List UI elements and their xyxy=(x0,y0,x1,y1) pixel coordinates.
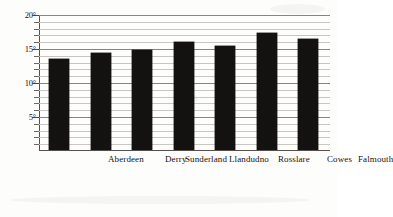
bar xyxy=(132,50,152,150)
y-axis-tick-label: 15° xyxy=(2,45,36,54)
x-axis-tick-label: Falmouth xyxy=(298,152,318,214)
x-axis-labels: AberdeenDerrySunderlandLlandudnoRosslare… xyxy=(39,152,330,217)
bar xyxy=(257,33,277,150)
plot-area xyxy=(39,15,330,151)
y-tick-major xyxy=(32,49,39,50)
bar xyxy=(49,59,69,150)
y-tick-major xyxy=(32,15,39,16)
bar-series xyxy=(39,15,330,151)
y-axis-labels: 20°15°10°5° xyxy=(0,0,36,217)
bar xyxy=(174,42,194,151)
y-axis-ticks xyxy=(32,15,39,151)
y-axis-tick-label: 20° xyxy=(2,11,36,20)
scan-artifact xyxy=(270,4,325,14)
y-tick-major xyxy=(32,83,39,84)
bar xyxy=(298,39,318,150)
x-axis-tick-label: Rosslare xyxy=(215,152,235,214)
bar xyxy=(91,53,111,150)
x-axis-tick-label: Aberdeen xyxy=(49,152,69,214)
y-axis-tick-label: 5° xyxy=(2,113,36,122)
y-axis-tick-label: 10° xyxy=(2,79,36,88)
y-tick-major xyxy=(32,117,39,118)
x-axis-tick-label: Derry xyxy=(91,152,111,214)
x-axis-tick-label: Llandudno xyxy=(174,152,194,214)
x-axis-tick-label-text: Falmouth xyxy=(333,154,393,164)
x-axis-tick-label: Cowes xyxy=(257,152,277,214)
x-axis-tick-label: Sunderland xyxy=(132,152,152,214)
bar xyxy=(215,46,235,150)
x-axis-baseline xyxy=(39,150,330,151)
